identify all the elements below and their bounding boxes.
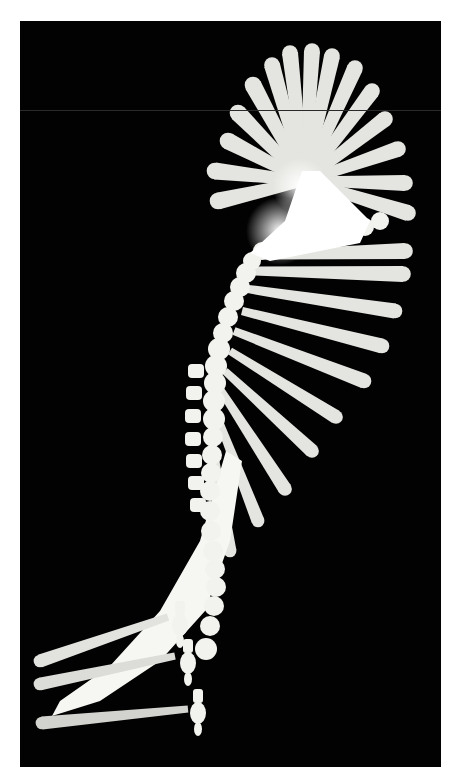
upper-fan-handle-end xyxy=(304,43,320,59)
lower-fan-handle-end xyxy=(329,410,343,424)
upper-fan-handle-end xyxy=(230,105,247,122)
hammer-head xyxy=(201,463,221,483)
upper-fan-handle-end xyxy=(245,77,262,94)
bottom-hammer-handle-end xyxy=(34,655,47,668)
lower-fan-handle-end xyxy=(357,374,372,389)
hammer-head-nub xyxy=(186,386,202,400)
upper-fan-handle-end xyxy=(282,45,298,61)
lower-fan-handle-end xyxy=(252,515,265,528)
lower-fan-handle-end xyxy=(397,243,413,259)
hammer-head xyxy=(206,577,226,597)
upper-fan-handle-end xyxy=(400,205,416,221)
upper-fan-handle-end xyxy=(220,133,237,150)
upper-fan-handle-end xyxy=(264,57,280,73)
bottom-hammer-face xyxy=(175,601,185,615)
bottom-hammer-head xyxy=(172,614,188,636)
lower-fan-handle xyxy=(255,266,403,282)
photo: Stroboscopic multiple-exposure photograp… xyxy=(20,21,441,767)
lower-fan-handle-end xyxy=(375,339,390,354)
upper-fan-handle-end xyxy=(364,83,380,99)
upper-fan-handle-end xyxy=(390,141,406,157)
hammer-head xyxy=(203,541,223,561)
hammer-head xyxy=(205,559,225,579)
bottom-hammer-peen xyxy=(176,634,184,648)
upper-fan-handle-end xyxy=(377,111,393,127)
hammer-head xyxy=(203,427,223,447)
hammer-head xyxy=(200,501,220,521)
lower-fan-handle-end xyxy=(395,266,411,282)
bottom-hammer-face xyxy=(193,689,203,703)
hammer-head-nub xyxy=(186,454,202,468)
bottom-hammer-face xyxy=(183,639,193,653)
hammer-head xyxy=(204,596,224,616)
hammer-head-nub xyxy=(185,409,201,423)
hammer-strobe-image xyxy=(20,21,441,767)
hammer-head-nub xyxy=(188,364,204,378)
hammer-head-nub xyxy=(185,432,201,446)
bottom-hammer-peen xyxy=(194,722,202,736)
upper-fan-handle-end xyxy=(347,60,363,76)
lower-fan-handle-end xyxy=(278,482,292,496)
hammer-head xyxy=(201,521,221,541)
hammer-head xyxy=(195,638,217,660)
bottom-hammer-head xyxy=(190,702,206,724)
bottom-hammer-peen xyxy=(184,672,192,686)
bottom-hammer-head xyxy=(180,652,196,674)
hammer-head xyxy=(203,408,225,430)
hammer-head xyxy=(200,616,220,636)
bottom-hammer-handle-end xyxy=(36,717,49,730)
lower-fan-handle-end xyxy=(305,444,319,458)
bottom-hammer-handle-end xyxy=(34,678,47,691)
hammer-head xyxy=(202,445,222,465)
upper-fan-handle-end xyxy=(207,163,224,180)
upper-fan-handle-end xyxy=(397,175,413,191)
scan-artifact-line xyxy=(20,110,441,111)
hammer-head xyxy=(200,481,220,501)
upper-fan-handle-end xyxy=(324,48,340,64)
lower-fan-handle-end xyxy=(388,304,403,319)
upper-fan-handle-end xyxy=(210,193,227,210)
